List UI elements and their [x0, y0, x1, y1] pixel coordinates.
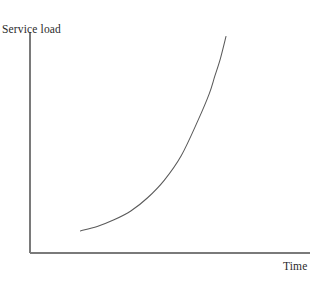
- axes: [30, 32, 310, 253]
- x-axis-label: Time: [283, 260, 307, 272]
- y-axis-label: Service load: [2, 23, 61, 35]
- service-load-curve: [80, 36, 226, 230]
- data-series-group: [80, 36, 226, 230]
- exponential-growth-chart: Service load Time: [0, 0, 322, 283]
- plot-area: [0, 0, 322, 283]
